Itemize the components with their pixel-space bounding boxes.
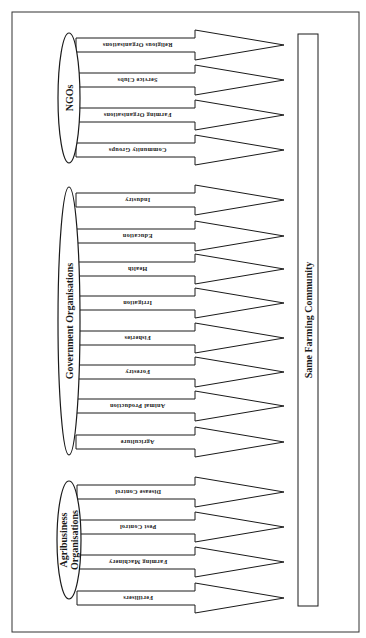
arrow-label: Animal Production: [109, 403, 165, 410]
arrow-label: Agriculture: [120, 439, 154, 446]
arrow-label: Irrigation: [123, 300, 152, 307]
arrow-label: Fisheries: [124, 335, 151, 342]
arrow-label: Religious Organisations: [102, 42, 172, 49]
arrow-label: Disease Control: [115, 489, 161, 496]
group-label: Organisations: [69, 510, 80, 570]
diagram-canvas: Religious OrganisationsService ClubsFarm…: [0, 0, 366, 638]
arrow-label: Pest Control: [120, 524, 157, 531]
arrow-label: Forestry: [124, 369, 150, 376]
arrow-label: Community Groups: [108, 147, 166, 154]
arrow-label: Industry: [124, 197, 150, 204]
group-label: NGOs: [64, 85, 75, 112]
arrow-label: Education: [122, 233, 152, 240]
target-bar: Same Farming Community: [298, 34, 318, 606]
group-label: Agribusiness: [58, 512, 69, 567]
community-label: Same Farming Community: [303, 262, 314, 379]
group-label: Government Organisations: [64, 263, 75, 379]
arrow-label: Farming Organisations: [103, 112, 171, 119]
arrow-label: Health: [127, 266, 147, 273]
arrow-label: Fertilisers: [123, 595, 153, 602]
arrow-label: Service Clubs: [117, 77, 157, 84]
arrow-label: Farming Machinery: [108, 559, 167, 566]
